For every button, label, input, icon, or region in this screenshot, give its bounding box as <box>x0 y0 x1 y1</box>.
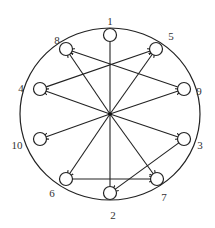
node-5 <box>150 43 163 56</box>
node-label-1: 1 <box>107 15 113 27</box>
edge-3-to-2 <box>111 143 179 192</box>
edge-9-to-8 <box>67 49 177 86</box>
nodes-group <box>34 29 191 200</box>
node-1 <box>104 29 117 42</box>
hub-point <box>108 112 112 116</box>
node-8 <box>60 43 73 56</box>
node-label-10: 10 <box>12 139 24 151</box>
node-label-8: 8 <box>54 34 60 46</box>
edges-group <box>41 42 182 193</box>
edge-hub-to-3 <box>110 114 183 139</box>
node-label-7: 7 <box>161 191 167 203</box>
edge-hub-to-6 <box>67 114 110 178</box>
node-6 <box>60 173 73 186</box>
edge-hub-to-4 <box>41 90 110 114</box>
edge-hub-to-10 <box>41 114 110 138</box>
node-4 <box>34 83 47 96</box>
node-label-2: 2 <box>110 209 116 221</box>
node-label-9: 9 <box>196 85 202 97</box>
edge-hub-to-7 <box>110 114 156 178</box>
node-label-5: 5 <box>168 30 174 42</box>
node-label-3: 3 <box>197 139 203 151</box>
node-10 <box>34 133 47 146</box>
node-7 <box>151 173 164 186</box>
directed-graph-diagram: 15937261048 <box>0 0 215 228</box>
node-label-4: 4 <box>18 82 24 94</box>
edge-hub-to-9 <box>110 89 183 114</box>
node-label-6: 6 <box>49 187 55 199</box>
edge-hub-to-5 <box>110 50 155 114</box>
node-2 <box>104 187 117 200</box>
node-3 <box>178 133 191 146</box>
node-9 <box>178 83 191 96</box>
edge-hub-to-8 <box>67 50 110 114</box>
